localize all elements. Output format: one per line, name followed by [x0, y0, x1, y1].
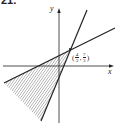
- intersection-dot: [69, 48, 71, 50]
- paren-close: ): [87, 54, 89, 62]
- y-denominator: 3: [83, 58, 86, 63]
- y-fraction: 7 3: [83, 52, 87, 63]
- y-axis-arrow-icon: [57, 8, 60, 13]
- shaded-region: [4, 49, 70, 121]
- y-axis-label: y: [50, 4, 54, 13]
- x-fraction: 4 3: [75, 52, 79, 63]
- paren-open: (: [72, 54, 74, 62]
- graph: [0, 0, 120, 127]
- x-denominator: 3: [76, 58, 79, 63]
- separator: ,: [80, 54, 82, 62]
- intersection-label: ( 4 3 , 7 3 ): [72, 52, 89, 63]
- x-axis-label: x: [108, 67, 112, 76]
